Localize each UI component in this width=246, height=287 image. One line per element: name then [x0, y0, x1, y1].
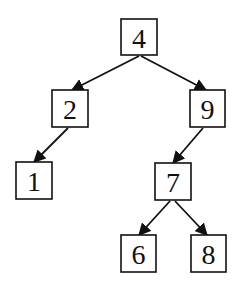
node-label: 1	[27, 166, 41, 197]
tree-diagram: 4291768	[0, 0, 246, 287]
node-label: 9	[201, 94, 215, 125]
tree-node-2: 2	[52, 90, 88, 127]
tree-node-4: 4	[121, 19, 157, 55]
tree-node-8: 8	[191, 235, 226, 272]
tree-node-6: 6	[121, 235, 156, 272]
edge-7-to-6	[139, 201, 170, 235]
edge-7-to-8	[175, 201, 207, 235]
node-label: 4	[132, 23, 146, 54]
edge-4-to-2	[72, 56, 139, 90]
edges	[34, 56, 207, 235]
tree-node-1: 1	[16, 162, 52, 199]
edge-4-to-9	[141, 56, 206, 90]
tree-node-9: 9	[190, 90, 225, 127]
node-label: 6	[132, 239, 146, 270]
edge-9-to-7	[173, 128, 203, 163]
node-label: 7	[166, 167, 180, 198]
node-label: 2	[63, 94, 77, 125]
edge-2-to-1	[34, 128, 68, 162]
tree-node-7: 7	[155, 163, 191, 200]
node-label: 8	[202, 239, 216, 270]
nodes: 4291768	[16, 19, 226, 272]
